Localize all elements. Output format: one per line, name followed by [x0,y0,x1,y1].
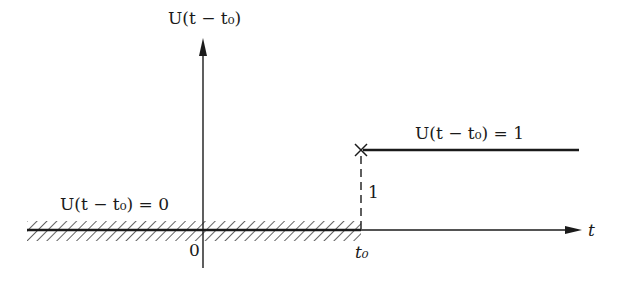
region-before-label: U(t − t₀) = 0 [60,194,169,214]
x-axis-arrowhead-icon [565,226,582,234]
y-axis-label: U(t − t₀) [168,8,241,28]
step-function-diagram: U(t − t₀) t 0 t₀ 1 U(t − t₀) = 0 U(t − t… [0,0,621,285]
step-height-label: 1 [368,182,379,202]
origin-label: 0 [189,240,200,260]
x-axis-label: t [588,220,595,240]
t0-tick-label: t₀ [355,242,369,262]
y-axis-arrowhead-icon [199,38,207,56]
region-after-label: U(t − t₀) = 1 [415,123,524,143]
